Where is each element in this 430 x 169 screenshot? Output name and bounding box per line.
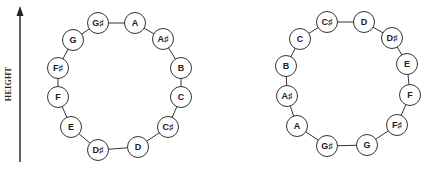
pitch-node-label: C xyxy=(178,92,185,102)
pitch-node-label: B xyxy=(283,61,290,71)
pitch-node-label: D xyxy=(135,142,142,152)
pitch-node-label: B xyxy=(178,63,185,73)
pitch-node: A xyxy=(125,13,146,34)
pitch-node-label: F♯ xyxy=(392,120,402,130)
pitch-node-label: G♯ xyxy=(92,18,104,28)
pitch-node: D xyxy=(354,12,375,33)
pitch-node-label: F xyxy=(55,92,61,102)
pitch-node-label: C♯ xyxy=(322,17,333,27)
pitch-node: B xyxy=(171,58,192,79)
pitch-circle-left: G♯AA♯BCC♯DD♯EFF♯G xyxy=(48,13,192,161)
height-axis: HEIGHT xyxy=(4,6,24,162)
pitch-node-label: D♯ xyxy=(93,145,104,155)
pitch-node-label: C xyxy=(297,34,304,44)
pitch-node-label: A♯ xyxy=(282,91,293,101)
pitch-node-label: F♯ xyxy=(53,63,63,73)
pitch-node: G♯ xyxy=(88,13,109,34)
pitch-node: D♯ xyxy=(382,28,403,49)
pitch-node-label: G xyxy=(363,140,370,150)
pitch-node: C xyxy=(171,87,192,108)
pitch-node-label: F xyxy=(407,90,413,100)
pitch-node: C♯ xyxy=(158,117,179,138)
pitch-node: G♯ xyxy=(317,136,338,157)
pitch-node-label: A xyxy=(294,121,301,131)
pitch-node-label: A♯ xyxy=(158,34,169,44)
pitch-node: C xyxy=(290,29,311,50)
pitch-node-label: E xyxy=(68,122,74,132)
pitch-circle-diagram: HEIGHT G♯AA♯BCC♯DD♯EFF♯G C♯DD♯EFF♯GG♯AA♯… xyxy=(0,0,430,169)
pitch-node: F xyxy=(48,87,69,108)
pitch-node: E xyxy=(61,117,82,138)
pitch-node: G xyxy=(357,135,378,156)
pitch-node: A xyxy=(287,116,308,137)
pitch-circle-right: C♯DD♯EFF♯GG♯AA♯BC xyxy=(276,12,421,157)
arrow-up-icon xyxy=(17,6,24,16)
pitch-node: D♯ xyxy=(88,140,109,161)
pitch-node: C♯ xyxy=(317,12,338,33)
pitch-node-label: C♯ xyxy=(163,122,174,132)
pitch-node: B xyxy=(276,56,297,77)
pitch-node: E xyxy=(397,54,418,75)
pitch-node: D xyxy=(128,137,149,158)
pitch-node: G xyxy=(63,30,84,51)
diagram-canvas: HEIGHT G♯AA♯BCC♯DD♯EFF♯G C♯DD♯EFF♯GG♯AA♯… xyxy=(0,0,430,169)
pitch-node: A♯ xyxy=(277,86,298,107)
pitch-node-label: G xyxy=(69,35,76,45)
pitch-node: F♯ xyxy=(387,115,408,136)
height-axis-label: HEIGHT xyxy=(4,67,13,102)
pitch-node: F xyxy=(400,85,421,106)
pitch-node-label: G♯ xyxy=(321,141,333,151)
pitch-node: A♯ xyxy=(153,29,174,50)
pitch-node-label: D xyxy=(361,17,368,27)
pitch-node-label: A xyxy=(132,18,139,28)
pitch-node-label: D♯ xyxy=(387,33,398,43)
pitch-node-label: E xyxy=(404,59,410,69)
pitch-node: F♯ xyxy=(48,58,69,79)
